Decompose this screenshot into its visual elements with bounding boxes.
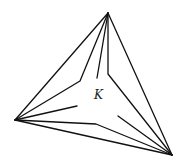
spur-from-left	[15, 106, 77, 120]
outer-edges	[15, 13, 172, 155]
edge-top-left	[15, 13, 108, 120]
inner-paths	[15, 13, 172, 155]
region-label-k: K	[93, 88, 104, 102]
edge-top-right	[108, 13, 172, 155]
spur-from-top	[97, 13, 108, 78]
triangulation-diagram: K	[0, 0, 187, 168]
